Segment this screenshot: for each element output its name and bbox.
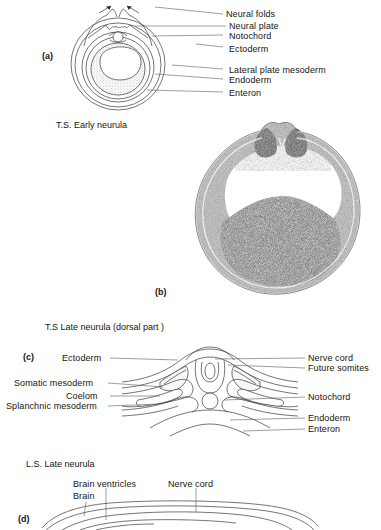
panel-b-id: (b) <box>155 287 167 297</box>
panel-d-diagram <box>40 500 340 530</box>
label-ectoderm-a: Ectoderm <box>229 44 268 54</box>
panel-c-caption: T.S Late neurula (dorsal part ) <box>45 322 164 332</box>
label-enteron-c: Enteron <box>308 424 340 434</box>
label-future-somites: Future somites <box>308 363 369 373</box>
label-nerve-cord-c: Nerve cord <box>308 353 353 363</box>
label-endoderm-a: Endoderm <box>229 75 271 85</box>
label-enteron-a: Enteron <box>229 88 261 98</box>
panel-b-micrograph <box>183 118 381 306</box>
label-lateral-plate-mesoderm: Lateral plate mesoderm <box>229 65 326 75</box>
panel-a-id: (a) <box>42 51 53 61</box>
panel-a-caption: T.S. Early neurula <box>56 120 127 130</box>
label-endoderm-c: Endoderm <box>308 413 350 423</box>
label-neural-folds: Neural folds <box>226 9 275 19</box>
panel-d-id: (d) <box>18 514 30 524</box>
label-ectoderm-c: Ectoderm <box>62 353 101 363</box>
label-neural-plate: Neural plate <box>229 21 279 31</box>
label-notochord-a: Notochord <box>229 31 271 41</box>
label-splanchnic-mesoderm: Splanchnic mesoderm <box>6 401 97 411</box>
label-somatic-mesoderm: Somatic mesoderm <box>14 378 93 388</box>
label-notochord-c: Notochord <box>308 392 350 402</box>
panel-d-caption: L.S. Late neurula <box>26 459 95 469</box>
label-coelom: Coelom <box>66 391 98 401</box>
